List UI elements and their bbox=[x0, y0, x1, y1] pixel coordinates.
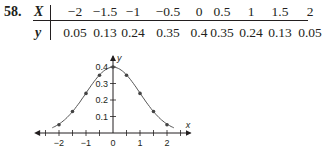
data-point bbox=[152, 110, 156, 114]
chart-labels: −2−10120.10.20.30.4xy bbox=[54, 53, 191, 148]
x-tick-label: −2 bbox=[54, 138, 64, 148]
x-tick-label: 0 bbox=[110, 138, 115, 148]
data-point bbox=[165, 123, 169, 127]
y-tick-label: 0.1 bbox=[95, 112, 108, 122]
data-point bbox=[98, 73, 102, 77]
data-point bbox=[71, 110, 75, 114]
data-point bbox=[138, 92, 142, 96]
x-axis-left-arrow-icon bbox=[34, 130, 40, 136]
data-point bbox=[125, 73, 129, 77]
x-tick-label: 2 bbox=[164, 138, 169, 148]
data-point bbox=[111, 65, 115, 69]
data-point bbox=[84, 92, 88, 96]
x-tick-label: 1 bbox=[137, 138, 142, 148]
x-tick-label: −1 bbox=[81, 138, 91, 148]
data-point bbox=[57, 123, 61, 127]
y-axis-label: y bbox=[116, 53, 122, 63]
y-tick-label: 0.3 bbox=[95, 79, 108, 89]
x-axis-label: x bbox=[185, 120, 191, 130]
y-tick-label: 0.4 bbox=[95, 62, 108, 72]
y-tick-label: 0.2 bbox=[95, 95, 108, 105]
